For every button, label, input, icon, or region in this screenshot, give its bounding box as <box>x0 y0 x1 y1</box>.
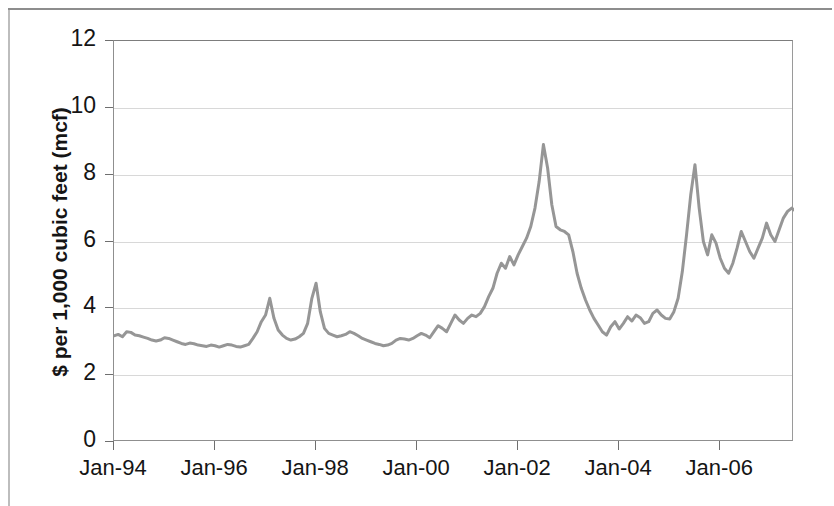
y-tick-label-text: 0 <box>10 428 96 451</box>
x-tick-label-text: Jan-98 <box>281 455 348 480</box>
x-tick-label-text: Jan-02 <box>484 455 551 480</box>
x-tick-label-Jan-06: Jan-06 <box>659 455 779 481</box>
y-tick-label-text: 10 <box>10 94 96 117</box>
y-tick-label-text: 4 <box>10 294 96 317</box>
y-tick-label-text: 6 <box>10 228 96 251</box>
x-tick-mark-Jan-02 <box>517 441 518 450</box>
x-tick-label-text: Jan-06 <box>686 455 753 480</box>
plot-area <box>113 40 793 441</box>
y-tick-label-text: 12 <box>10 27 96 50</box>
x-tick-mark-Jan-00 <box>416 441 417 450</box>
x-tick-mark-Jan-94 <box>113 441 114 450</box>
x-tick-mark-Jan-06 <box>719 441 720 450</box>
y-tick-label-text: 2 <box>10 361 96 384</box>
x-tick-label-text: Jan-00 <box>382 455 449 480</box>
x-tick-mark-Jan-98 <box>315 441 316 450</box>
figure-canvas: $ per 1,000 cubic feet (mcf) 024681012 J… <box>0 0 834 506</box>
x-tick-mark-Jan-04 <box>618 441 619 450</box>
x-tick-label-text: Jan-96 <box>180 455 247 480</box>
y-tick-label-text: 8 <box>10 161 96 184</box>
x-tick-label-text: Jan-04 <box>585 455 652 480</box>
data-series-line <box>114 41 794 442</box>
x-tick-mark-Jan-96 <box>214 441 215 450</box>
x-tick-label-text: Jan-94 <box>79 455 146 480</box>
